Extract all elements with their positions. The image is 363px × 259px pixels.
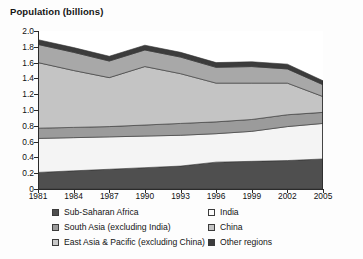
legend-swatch-icon: [208, 209, 215, 216]
population-stacked-area-figure: Population (billions) 00.20.40.60.81.01.…: [0, 0, 363, 259]
x-tick-label: 1984: [64, 191, 83, 201]
chart-legend: Sub-Saharan AfricaSouth Asia (excluding …: [0, 206, 363, 252]
x-tick-mark: [74, 189, 75, 193]
y-tick-label: 0.2: [22, 168, 34, 178]
legend-item-label: South Asia (excluding India): [64, 223, 171, 232]
legend-column-right: IndiaChinaOther regions: [208, 206, 272, 251]
legend-item-label: China: [220, 223, 242, 232]
x-tick-label: 1990: [136, 191, 155, 201]
chart-title: Population (billions): [10, 6, 103, 17]
y-tick-mark: [34, 157, 38, 158]
x-tick-label: 1999: [242, 191, 261, 201]
y-tick-mark: [34, 31, 38, 32]
x-tick-mark: [38, 189, 39, 193]
x-tick-mark: [287, 189, 288, 193]
legend-item-label: Other regions: [220, 238, 272, 247]
x-tick-mark: [145, 189, 146, 193]
legend-item[interactable]: South Asia (excluding India): [52, 221, 205, 234]
legend-item[interactable]: India: [208, 206, 272, 219]
y-axis-tick-labels: 00.20.40.60.81.01.21.41.61.82.0: [0, 31, 34, 189]
x-tick-mark: [181, 189, 182, 193]
y-tick-label: 0.6: [22, 137, 34, 147]
stacked-area-plot: [38, 31, 323, 189]
y-tick-label: 0.8: [22, 121, 34, 131]
x-tick-label: 1996: [207, 191, 226, 201]
legend-item-label: East Asia & Pacific (excluding China): [64, 238, 205, 247]
y-tick-mark: [34, 126, 38, 127]
y-tick-mark: [34, 94, 38, 95]
legend-item[interactable]: Sub-Saharan Africa: [52, 206, 205, 219]
y-tick-mark: [34, 142, 38, 143]
legend-swatch-icon: [208, 224, 215, 231]
y-tick-label: 1.2: [22, 89, 34, 99]
legend-item-label: Sub-Saharan Africa: [64, 208, 139, 217]
legend-item[interactable]: China: [208, 221, 272, 234]
y-tick-mark: [34, 110, 38, 111]
x-tick-label: 1993: [171, 191, 190, 201]
y-axis-line: [38, 31, 39, 189]
legend-swatch-icon: [52, 209, 59, 216]
y-tick-label: 0.4: [22, 152, 34, 162]
y-tick-mark: [34, 173, 38, 174]
x-tick-label: 2005: [314, 191, 333, 201]
legend-item[interactable]: Other regions: [208, 236, 272, 249]
x-tick-label: 1987: [100, 191, 119, 201]
y-tick-label: 1.8: [22, 42, 34, 52]
x-tick-mark: [109, 189, 110, 193]
x-tick-label: 1981: [29, 191, 48, 201]
y-tick-mark: [34, 78, 38, 79]
y-tick-label: 1.4: [22, 73, 34, 83]
x-tick-mark: [252, 189, 253, 193]
y-tick-mark: [34, 63, 38, 64]
x-tick-mark: [216, 189, 217, 193]
legend-column-left: Sub-Saharan AfricaSouth Asia (excluding …: [52, 206, 205, 251]
legend-swatch-icon: [208, 239, 215, 246]
legend-item[interactable]: East Asia & Pacific (excluding China): [52, 236, 205, 249]
x-axis-tick-labels: 198119841987199019931996199920022005: [0, 191, 363, 205]
y-tick-mark: [34, 189, 38, 190]
legend-swatch-icon: [52, 224, 59, 231]
plot-area: [38, 31, 323, 189]
y-tick-label: 1.0: [22, 105, 34, 115]
y-tick-label: 2.0: [22, 26, 34, 36]
x-tick-label: 2002: [278, 191, 297, 201]
y-tick-mark: [34, 47, 38, 48]
y-tick-label: 1.6: [22, 58, 34, 68]
legend-item-label: India: [220, 208, 239, 217]
legend-swatch-icon: [52, 239, 59, 246]
x-tick-mark: [323, 189, 324, 193]
